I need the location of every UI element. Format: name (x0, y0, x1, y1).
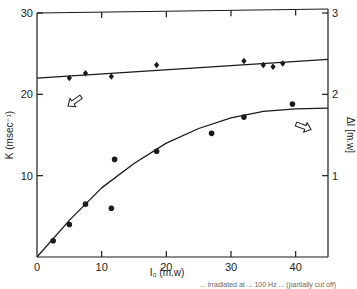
y-axis-right-label: ΔI [m.w] (345, 117, 356, 153)
data-point-diamond (280, 60, 285, 66)
data-point-circle (50, 238, 56, 244)
tick-labels: 010203040102030123 (21, 7, 338, 273)
data-point-circle (241, 114, 247, 120)
data-point-circle (290, 101, 296, 107)
fit-line-delta-i (37, 108, 328, 257)
x-tick-label: 30 (225, 261, 237, 273)
data-point-circle (154, 148, 160, 154)
data-point-diamond (270, 63, 275, 69)
y-left-tick-label: 30 (21, 7, 33, 19)
fit-lines (37, 59, 328, 257)
data-point-diamond (154, 62, 159, 68)
figure-caption: ... irradiated at ... 100 Hz ... (partia… (200, 281, 336, 288)
data-point-diamond (241, 58, 246, 64)
top-border (37, 9, 328, 13)
data-point-diamond (109, 73, 114, 79)
y-left-tick-label: 10 (21, 170, 33, 182)
y-axis-left-label: K (msec⁻¹) (4, 111, 15, 159)
axes-frame (37, 9, 328, 257)
data-point-circle (112, 157, 118, 163)
right-arrow-icon (294, 119, 312, 134)
ticks (37, 9, 328, 257)
x-tick-label: 10 (96, 261, 108, 273)
y-left-tick-label: 20 (21, 88, 33, 100)
chart: 010203040102030123 I₀ (m.w) K (msec⁻¹) Δ… (0, 0, 357, 289)
y-right-tick-label: 2 (332, 88, 338, 100)
x-tick-label: 40 (290, 261, 302, 273)
data-point-circle (67, 222, 73, 228)
data-point-circle (109, 205, 115, 211)
fit-line-k (37, 59, 328, 78)
data-point-circle (209, 131, 215, 137)
left-arrow-icon (65, 93, 84, 110)
data-points (50, 58, 295, 244)
y-right-tick-label: 1 (332, 170, 338, 182)
x-tick-label: 0 (34, 261, 40, 273)
data-point-circle (83, 201, 89, 207)
y-right-tick-label: 3 (332, 7, 338, 19)
x-axis-label: I₀ (m.w) (150, 267, 185, 278)
